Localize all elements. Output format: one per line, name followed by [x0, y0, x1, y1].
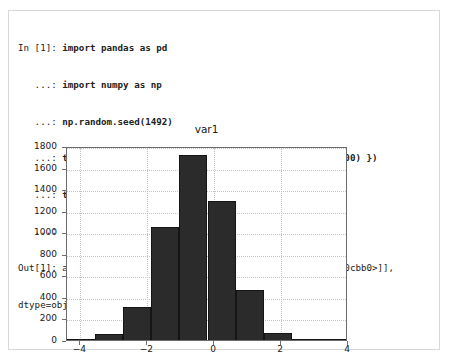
x-tick-mark: [280, 341, 281, 345]
code-line: In [1]: import pandas as pd: [18, 42, 438, 54]
histogram-bar: [292, 339, 320, 340]
x-tick-mark: [213, 341, 214, 345]
histogram-bar: [320, 339, 347, 340]
y-tick-label: 1200: [23, 206, 57, 216]
y-tick-label: 0: [23, 335, 57, 345]
gridline: [80, 148, 81, 340]
y-tick-mark: [62, 341, 66, 342]
plot-area: [66, 147, 347, 341]
y-tick-label: 800: [23, 249, 57, 259]
gridline: [281, 148, 282, 340]
ipython-cell: In [1]: import pandas as pd ...: import …: [8, 10, 440, 350]
y-tick-label: 1600: [23, 163, 57, 173]
x-tick-mark: [146, 341, 147, 345]
x-tick-label: −4: [59, 344, 99, 354]
x-tick-label: 0: [193, 344, 233, 354]
x-tick-label: −2: [126, 344, 166, 354]
histogram-bar: [208, 201, 236, 340]
histogram-bar: [151, 227, 179, 340]
y-tick-label: 400: [23, 292, 57, 302]
y-tick-label: 1800: [23, 141, 57, 151]
input-prompt: ...:: [18, 79, 62, 90]
y-tick-label: 1400: [23, 184, 57, 194]
code-line: ...: import numpy as np: [18, 79, 438, 91]
code-text: import numpy as np: [62, 79, 162, 90]
histogram-bar: [123, 307, 151, 340]
code-text: import pandas as pd: [62, 42, 167, 53]
input-prompt: In [1]:: [18, 42, 62, 53]
histogram-bar: [264, 333, 292, 340]
x-tick-label: 2: [260, 344, 300, 354]
histogram-bar: [179, 155, 207, 340]
histogram-bar: [95, 334, 123, 340]
y-tick-label: 600: [23, 270, 57, 280]
y-tick-label: 1000: [23, 227, 57, 237]
histogram-bar: [236, 290, 264, 340]
x-tick-label: 4: [327, 344, 367, 354]
histogram-bar: [67, 339, 95, 340]
x-tick-mark: [79, 341, 80, 345]
y-tick-label: 200: [23, 313, 57, 323]
x-tick-mark: [347, 341, 348, 345]
gridline: [67, 148, 346, 149]
